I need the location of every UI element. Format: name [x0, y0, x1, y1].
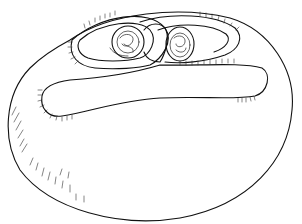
- shading-hatches: [12, 107, 84, 202]
- illustration-canvas: [0, 0, 302, 224]
- lower-elongated-loop: [42, 65, 268, 117]
- embryo-drawing: [0, 0, 302, 224]
- right-coiled-chamber: [166, 27, 194, 61]
- left-coiled-chamber: [110, 26, 144, 58]
- central-connector: [144, 24, 167, 62]
